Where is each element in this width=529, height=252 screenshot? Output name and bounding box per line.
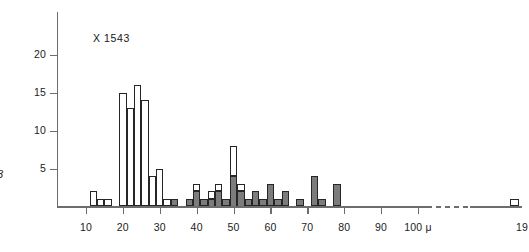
- y-tick-20: [50, 55, 58, 56]
- histogram-bar-open: [230, 146, 237, 176]
- y-tick-label-15: 15: [16, 87, 46, 98]
- histogram-bar-open: [208, 191, 215, 199]
- y-tick-10: [50, 131, 58, 132]
- histogram-bar-open: [237, 184, 244, 192]
- histogram-bar-open: [90, 191, 97, 206]
- x-tick-30: [160, 207, 161, 214]
- x-tick-label-60: 60: [264, 222, 276, 233]
- histogram-bar-shaded: [311, 176, 318, 206]
- x-tick-label-10: 10: [80, 222, 92, 233]
- histogram-bar-shaded: [237, 191, 244, 206]
- histogram-chart: X 1543 3 5101520 102030405060708090100 μ…: [0, 0, 529, 252]
- histogram-bar-shaded: [193, 191, 200, 206]
- histogram-bar-shaded: [318, 199, 325, 207]
- y-tick-label-5: 5: [16, 163, 46, 174]
- histogram-bar-open: [163, 199, 170, 207]
- histogram-bar-open: [127, 108, 134, 207]
- x-tick-10: [86, 207, 87, 214]
- x-tick-80: [344, 207, 345, 214]
- histogram-bar-shaded: [259, 199, 266, 207]
- histogram-bar-open: [134, 85, 141, 206]
- chart-title: X 1543: [93, 32, 130, 44]
- histogram-bar-shaded: [282, 191, 289, 206]
- y-axis-line: [57, 12, 58, 207]
- x-tick-90: [381, 207, 382, 214]
- histogram-bar-shaded: [200, 199, 207, 207]
- histogram-bar-shaded: [230, 176, 237, 206]
- x-tick-20: [123, 207, 124, 214]
- histogram-bar-shaded: [274, 199, 281, 207]
- y-tick-label-20: 20: [16, 49, 46, 60]
- y-tick-label-10: 10: [16, 125, 46, 136]
- x-tick-label-70: 70: [301, 222, 313, 233]
- histogram-bar-shaded: [208, 199, 215, 207]
- x-axis-line-left: [57, 206, 427, 207]
- y-tick-5: [50, 169, 58, 170]
- histogram-bar-shaded: [222, 199, 229, 207]
- histogram-bar-open: [149, 176, 156, 206]
- x-tick-label-100: 100 μ: [404, 222, 432, 233]
- histogram-bar-shaded: [245, 199, 252, 207]
- histogram-bar-shaded: [186, 199, 193, 207]
- x-axis-break-dashed: [427, 206, 471, 207]
- histogram-bar-open: [104, 199, 111, 207]
- histogram-bar-shaded: [171, 199, 178, 207]
- histogram-bar-open: [156, 169, 163, 207]
- histogram-bar-open: [510, 199, 519, 207]
- histogram-bar-open: [141, 100, 148, 206]
- x-tick-label-50: 50: [228, 222, 240, 233]
- y-tick-15: [50, 93, 58, 94]
- x-axis-line-right: [470, 206, 522, 207]
- histogram-bar-shaded: [296, 199, 303, 207]
- histogram-bar-shaded: [215, 191, 222, 206]
- x-tick-50: [234, 207, 235, 214]
- histogram-bar-shaded: [333, 184, 340, 207]
- histogram-bar-open: [97, 199, 104, 207]
- x-tick-label-90: 90: [375, 222, 387, 233]
- histogram-bar-shaded: [267, 184, 274, 207]
- histogram-bar-open: [215, 184, 222, 192]
- x-tick-label-80: 80: [338, 222, 350, 233]
- histogram-bar-open: [119, 93, 126, 207]
- x-tick-label-40: 40: [191, 222, 203, 233]
- histogram-bar-shaded: [252, 191, 259, 206]
- x-tick-70: [307, 207, 308, 214]
- x-tick-label-190: 19: [516, 222, 528, 233]
- x-tick-label-30: 30: [154, 222, 166, 233]
- histogram-bar-open: [193, 184, 200, 192]
- x-tick-label-20: 20: [117, 222, 129, 233]
- side-label: 3: [0, 168, 3, 180]
- x-tick-60: [270, 207, 271, 214]
- x-tick-100: [418, 207, 419, 214]
- x-tick-40: [197, 207, 198, 214]
